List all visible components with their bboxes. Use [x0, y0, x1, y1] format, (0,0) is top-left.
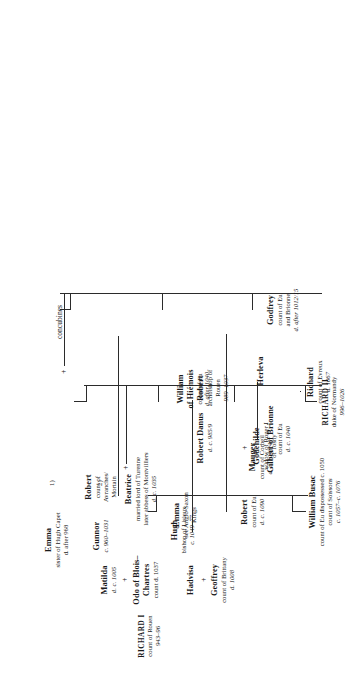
node-line: of Tosny: [270, 388, 278, 504]
node-name: Geoffrey: [210, 524, 220, 636]
child-stub-emma: [158, 385, 159, 402]
node-name: Robert: [240, 442, 250, 582]
node-line: d. after 968: [62, 484, 70, 596]
node-line: archbishop of: [206, 340, 214, 436]
concubine-bus-cap: [60, 309, 71, 310]
node-matilda: Matilda d. c. 1005: [100, 534, 118, 626]
node-emma-capet: Emma sister of Hugh Capet d. after 968: [44, 484, 70, 596]
node-line: d. 1067: [324, 326, 332, 438]
child-stub-godfrey: [252, 293, 253, 310]
node-line: d. c. 1040: [284, 376, 292, 502]
node-line: d. after 1012/15: [292, 240, 300, 380]
node-name: Matilda: [100, 534, 110, 626]
bus-cap-top: [74, 401, 87, 402]
node-line: d. 1008: [228, 524, 236, 636]
node-line: Avranches/: [102, 434, 110, 540]
node-hugh-lisieux: Hugh bishop of Lisieux c. 1049–77: [170, 460, 196, 600]
node-line: married lord of Turenne: [134, 406, 142, 572]
child-stub-mauger: [234, 385, 235, 402]
node-name: Emma: [44, 484, 54, 596]
node-line: sister of Hugh Capet: [54, 484, 62, 596]
child-stub-matilda: [86, 385, 87, 402]
child-stub-hugh: [156, 495, 157, 512]
child-stub-robert-avranches: [70, 293, 71, 310]
child-stub-william-busac: [292, 495, 293, 512]
node-robert-rouen: Robert archbishop of Rouen 989–1037: [196, 340, 230, 436]
connector-rouen-richard-evreux: [300, 391, 301, 392]
node-name: Richard: [306, 326, 316, 438]
node-line: count of Evreux: [316, 326, 324, 438]
node-line: c. 1049–77: [188, 460, 196, 600]
node-line: d. c. 1035: [150, 406, 158, 572]
marriage-symbol-hadvisa-geoffrey: +: [199, 577, 208, 582]
concubine-bus-entry: [64, 294, 65, 366]
marriage-symbol-godehilde: +: [240, 445, 249, 450]
node-line: count of Brittany: [220, 524, 228, 636]
node-godfrey: Godfrey count of Eu and Brionne d. after…: [266, 240, 300, 380]
connector-robert-beatrice: [118, 336, 119, 496]
node-robert-avranches: Robert count of Avranches/ Mortain: [84, 434, 118, 540]
genealogy-chart: RICHARD I count of Rouen 943–96 Emma sis…: [0, 0, 354, 692]
node-name: Godehilde: [252, 388, 262, 504]
node-beatrice: Beatrice married lord of Turenne later a…: [124, 406, 158, 572]
node-line: widow of Roger I: [262, 388, 270, 504]
node-line: d. c. 1005: [110, 534, 118, 626]
node-line: count of Eu: [276, 240, 284, 380]
node-name: Beatrice: [124, 406, 134, 572]
node-richard-evreux: Richard count of Evreux d. 1067: [306, 326, 332, 438]
node-name: Robert: [196, 340, 206, 436]
node-name: Hugh: [170, 460, 180, 600]
node-geoffrey-brittany: Geoffrey count of Brittany d. 1008: [210, 524, 236, 636]
node-name: Robert: [84, 434, 94, 540]
node-line: Rouen: [214, 340, 222, 436]
node-line: 989–1037: [222, 340, 230, 436]
child-stub-robert-eu: [226, 495, 227, 512]
node-line: Mortain: [110, 434, 118, 540]
node-name: Godfrey: [266, 240, 276, 380]
node-line: and Brionne: [284, 240, 292, 380]
marriage-symbol-matilda-odo: +: [120, 577, 129, 582]
node-name-cont: of Hiémois: [186, 324, 196, 454]
node-line: count of: [94, 434, 102, 540]
marriage-symbol-2: +: [59, 369, 68, 374]
william-children-bus-cap-bottom: [292, 511, 306, 512]
node-line: c. 1057–c. 1076: [334, 362, 342, 642]
william-children-bus-cap-top: [148, 511, 157, 512]
node-line: bishop of Lisieux: [180, 460, 188, 600]
marker-first-marriage: 1): [48, 480, 55, 486]
child-stub-william-hiemois: [162, 293, 163, 310]
node-name: William: [176, 324, 186, 454]
node-line: later abbess of Montvilliers: [142, 406, 150, 572]
node-godehilde: Godehilde widow of Roger I of Tosny: [252, 388, 278, 504]
